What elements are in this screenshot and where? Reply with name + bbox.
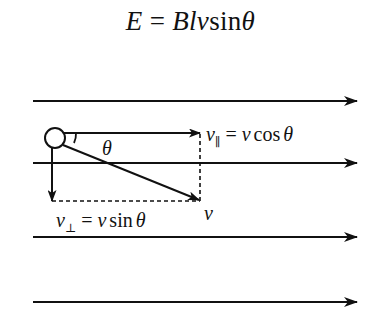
velocity-vectors <box>52 133 200 201</box>
v-resultant-label: v <box>204 203 213 223</box>
velocity-decomposition-diagram <box>0 0 381 335</box>
v-parallel-rhs-angle: θ <box>283 123 293 145</box>
v-perpendicular-eq: = <box>76 209 97 231</box>
v-parallel-label: v∥ = vcosθ <box>206 124 293 144</box>
v-perpendicular-symbol: v <box>56 209 65 231</box>
v-perpendicular-rhs-func: sin <box>109 209 132 231</box>
v-parallel-symbol: v <box>206 123 215 145</box>
v-parallel-eq: = <box>220 123 241 145</box>
angle-label: θ <box>102 138 112 158</box>
v-perpendicular-rhs-var: v <box>97 209 106 231</box>
angle-arc <box>74 133 76 143</box>
v-resultant-arrow <box>63 145 199 200</box>
v-parallel-rhs-var: v <box>242 123 251 145</box>
v-parallel-subscript: ∥ <box>215 135 221 149</box>
v-perpendicular-subscript: ⊥ <box>65 221 76 235</box>
v-resultant-symbol: v <box>204 202 213 224</box>
charged-particle <box>45 128 65 148</box>
v-perpendicular-label: v⊥ = vsinθ <box>56 210 146 230</box>
v-parallel-rhs-func: cos <box>254 123 281 145</box>
v-perpendicular-rhs-angle: θ <box>136 209 146 231</box>
angle-symbol: θ <box>102 137 112 159</box>
